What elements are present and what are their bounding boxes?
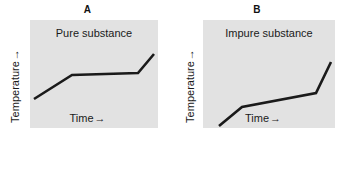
- pure-substance-curve: [34, 54, 154, 99]
- panel-a: A Pure substance Temperature→ Time→: [0, 0, 175, 172]
- panel-a-title: A: [0, 4, 175, 15]
- panel-a-y-axis-arrow-icon: →: [9, 49, 21, 61]
- panel-b-x-axis-text: Time: [245, 112, 269, 124]
- panel-b-x-axis-label: Time→: [175, 112, 351, 124]
- panel-a-x-axis-arrow-icon: →: [94, 112, 106, 124]
- panel-b-x-axis-arrow-icon: →: [269, 112, 281, 124]
- panel-b: B Impure substance Temperature→ Time→: [175, 0, 351, 172]
- panel-a-y-axis-label: Temperature→: [9, 28, 21, 144]
- heating-curves-figure: A Pure substance Temperature→ Time→ B Im…: [0, 0, 351, 172]
- panel-a-x-axis-label: Time→: [0, 112, 175, 124]
- panel-a-x-axis-text: Time: [69, 112, 93, 124]
- panel-b-title: B: [175, 4, 351, 15]
- panel-b-y-axis-arrow-icon: →: [184, 49, 196, 61]
- panel-b-y-axis-label: Temperature→: [184, 28, 196, 144]
